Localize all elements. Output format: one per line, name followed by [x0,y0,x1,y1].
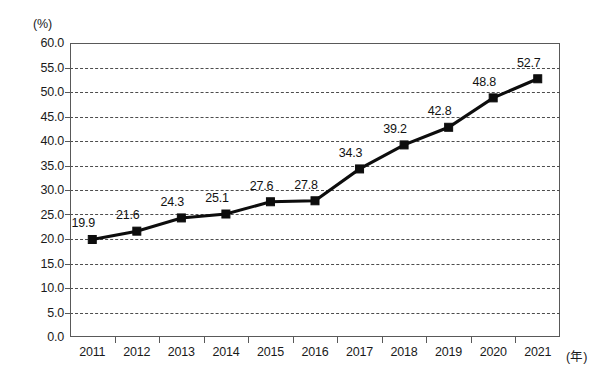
y-axis-tick-label: 5.0 [14,306,64,320]
y-axis-tick-label: 50.0 [14,85,64,99]
data-point-label: 19.9 [72,216,96,230]
data-point-label: 48.8 [472,75,496,89]
y-axis-tick-mark [65,288,71,289]
y-axis-tick-label: 15.0 [14,257,64,271]
y-axis-unit-label: (%) [33,17,52,31]
y-axis-tick-label: 60.0 [14,36,64,50]
y-axis-tick-mark [65,117,71,118]
y-axis-tick-label: 40.0 [14,134,64,148]
x-axis-tick-mark [293,337,294,343]
y-axis-tick-label: 35.0 [14,159,64,173]
y-axis-tick-mark [65,166,71,167]
gridline [70,141,560,142]
x-axis-tick-mark [248,337,249,343]
gridline [70,214,560,215]
data-point-label: 39.2 [383,122,407,136]
y-axis-tick-label: 55.0 [14,61,64,75]
y-axis-tick-label: 30.0 [14,183,64,197]
x-axis-tick-mark [382,337,383,343]
gridline [70,117,560,118]
chart-page: (%) 60.055.050.045.040.035.030.025.020.0… [0,0,611,379]
x-axis-tick-mark [426,337,427,343]
y-axis-tick-mark [65,214,71,215]
y-axis-tick-mark [65,68,71,69]
x-axis-tick-mark [204,337,205,343]
x-axis-tick-mark [337,337,338,343]
y-axis-tick-mark [65,190,71,191]
y-axis-tick-mark [65,239,71,240]
gridline [70,288,560,289]
gridline [70,313,560,314]
gridline [70,68,560,69]
gridline [70,92,560,93]
y-axis-tick-mark [65,313,71,314]
x-axis-tick-mark [515,337,516,343]
y-axis-tick-label: 25.0 [14,208,64,222]
data-point-label: 24.3 [161,195,185,209]
y-axis-tick-label: 0.0 [14,330,64,344]
x-axis-tick-mark [115,337,116,343]
data-point-label: 25.1 [205,191,229,205]
data-point-label: 34.3 [339,146,363,160]
data-point-label: 52.7 [517,56,541,70]
x-axis-unit-label: (年) [566,346,587,365]
x-axis-tick-mark [159,337,160,343]
x-axis-tick-label: 2021 [508,345,568,359]
data-point-label: 42.8 [428,104,452,118]
y-axis-tick-label: 45.0 [14,110,64,124]
gridline [70,239,560,240]
y-axis-tick-mark [65,92,71,93]
y-axis-tick-mark [65,264,71,265]
data-point-label: 27.6 [250,179,274,193]
y-axis-tick-label: 20.0 [14,232,64,246]
data-point-label: 27.8 [294,178,318,192]
y-axis-tick-mark [65,141,71,142]
y-axis-tick-label: 10.0 [14,281,64,295]
x-axis-tick-mark [471,337,472,343]
gridline [70,264,560,265]
gridline [70,166,560,167]
data-point-label: 21.6 [116,208,140,222]
